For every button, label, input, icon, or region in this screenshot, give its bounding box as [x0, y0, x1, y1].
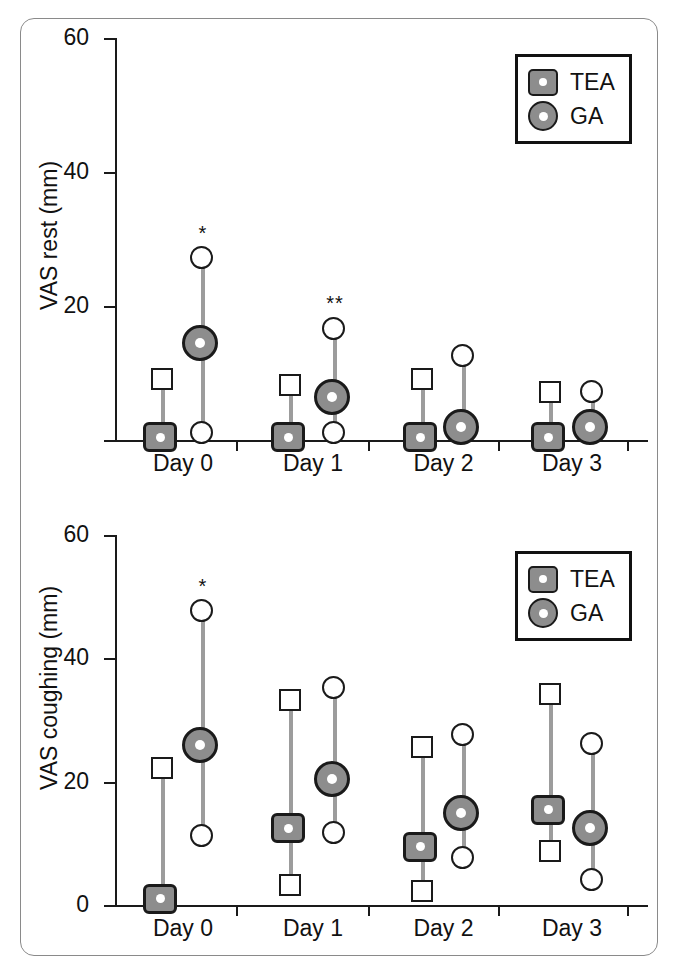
y-axis-tick — [104, 535, 115, 537]
whisker-cap-upper — [322, 317, 345, 340]
whisker-cap-upper — [151, 368, 173, 390]
whisker-cap-upper — [580, 732, 603, 755]
median-marker-ga — [314, 379, 350, 415]
whisker-cap-upper — [411, 368, 433, 390]
significance-marker: ** — [305, 293, 365, 313]
median-marker-ga — [443, 409, 479, 445]
whisker-cap-lower — [322, 821, 345, 844]
whisker-cap-lower — [190, 421, 213, 444]
x-axis-group-label: Day 0 — [123, 452, 243, 475]
median-marker-tea — [271, 813, 305, 843]
y-axis-line — [115, 535, 117, 905]
median-marker-tea — [143, 422, 177, 452]
x-axis-tick — [627, 440, 629, 451]
x-axis-line — [115, 905, 648, 907]
median-marker-tea — [531, 795, 565, 825]
whisker-cap-lower — [322, 421, 345, 444]
x-axis-tick — [368, 905, 370, 916]
x-axis-group-label: Day 2 — [384, 917, 504, 940]
x-axis-group-label: Day 1 — [253, 452, 373, 475]
median-marker-ga — [314, 761, 350, 797]
whisker-line — [421, 748, 425, 893]
x-axis-group-label: Day 1 — [253, 917, 373, 940]
median-marker-ga — [182, 325, 218, 361]
whisker-cap-upper — [539, 381, 561, 403]
panel-vas-coughing: 0204060VAS coughing (mm)Day 0Day 1Day 2D… — [0, 490, 676, 974]
whisker-cap-upper — [451, 723, 474, 746]
y-axis-line — [115, 38, 117, 440]
median-marker-tea — [531, 422, 565, 452]
y-axis-tick-label: 60 — [27, 26, 89, 49]
whisker-cap-upper — [451, 344, 474, 367]
whisker-cap-lower — [451, 846, 474, 869]
plot-area-vas-rest: 204060VAS rest (mm)Day 0Day 1Day 2Day 3*… — [0, 0, 676, 490]
legend-item-ga: GA — [528, 596, 615, 630]
y-axis-tick — [104, 172, 115, 174]
whisker-line — [289, 702, 293, 887]
y-axis-tick — [104, 306, 115, 308]
legend-item-tea: TEA — [528, 562, 615, 596]
whisker-cap-upper — [190, 599, 213, 622]
legend-label: TEA — [570, 71, 615, 94]
x-axis-tick — [498, 905, 500, 916]
y-axis-tick-label: 60 — [27, 523, 89, 546]
whisker-cap-lower — [279, 874, 301, 896]
whisker-line — [161, 769, 165, 902]
y-axis-tick — [104, 782, 115, 784]
median-marker-ga — [572, 409, 608, 445]
significance-marker: * — [173, 223, 233, 243]
y-axis-tick — [104, 905, 115, 907]
x-axis-group-label: Day 3 — [512, 452, 632, 475]
legend-item-ga: GA — [528, 99, 615, 133]
x-axis-group-label: Day 3 — [512, 917, 632, 940]
whisker-cap-lower — [539, 840, 561, 862]
whisker-cap-upper — [279, 689, 301, 711]
y-axis-title: VAS coughing (mm) — [36, 586, 63, 790]
median-marker-tea — [403, 422, 437, 452]
whisker-cap-upper — [190, 246, 213, 269]
whisker-cap-upper — [411, 736, 433, 758]
median-marker-tea — [403, 832, 437, 862]
legend: TEAGA — [515, 551, 632, 641]
y-axis-tick — [104, 658, 115, 660]
median-marker-ga — [572, 810, 608, 846]
x-axis-group-label: Day 2 — [384, 452, 504, 475]
whisker-line — [549, 695, 553, 852]
x-axis-tick — [236, 440, 238, 451]
tea-marker-icon — [528, 566, 558, 593]
legend-label: GA — [570, 602, 603, 625]
median-marker-tea — [143, 884, 177, 914]
legend-label: GA — [570, 105, 603, 128]
whisker-cap-upper — [279, 374, 301, 396]
whisker-cap-lower — [190, 824, 213, 847]
y-axis-tick — [104, 38, 115, 40]
plot-area-vas-coughing: 0204060VAS coughing (mm)Day 0Day 1Day 2D… — [0, 490, 676, 974]
whisker-cap-upper — [322, 676, 345, 699]
tea-marker-icon — [528, 69, 558, 96]
x-axis-tick — [498, 440, 500, 451]
whisker-cap-upper — [580, 380, 603, 403]
significance-marker: * — [173, 576, 233, 596]
ga-marker-icon — [528, 598, 558, 628]
whisker-cap-upper — [151, 757, 173, 779]
whisker-cap-lower — [411, 880, 433, 902]
whisker-line — [201, 612, 205, 837]
x-axis-tick — [627, 905, 629, 916]
median-marker-ga — [182, 727, 218, 763]
median-marker-ga — [443, 795, 479, 831]
x-axis-tick — [368, 440, 370, 451]
median-marker-tea — [271, 422, 305, 452]
legend: TEAGA — [515, 54, 632, 144]
legend-label: TEA — [570, 568, 615, 591]
legend-item-tea: TEA — [528, 65, 615, 99]
y-axis-tick-label: 0 — [27, 893, 89, 916]
x-axis-tick — [236, 905, 238, 916]
y-axis-title: VAS rest (mm) — [36, 161, 63, 310]
whisker-cap-upper — [539, 683, 561, 705]
y-axis-tick — [104, 440, 115, 442]
ga-marker-icon — [528, 101, 558, 131]
x-axis-group-label: Day 0 — [123, 917, 243, 940]
panel-vas-rest: 204060VAS rest (mm)Day 0Day 1Day 2Day 3*… — [0, 0, 676, 490]
figure-root: 204060VAS rest (mm)Day 0Day 1Day 2Day 3*… — [0, 0, 676, 974]
whisker-cap-lower — [580, 868, 603, 891]
